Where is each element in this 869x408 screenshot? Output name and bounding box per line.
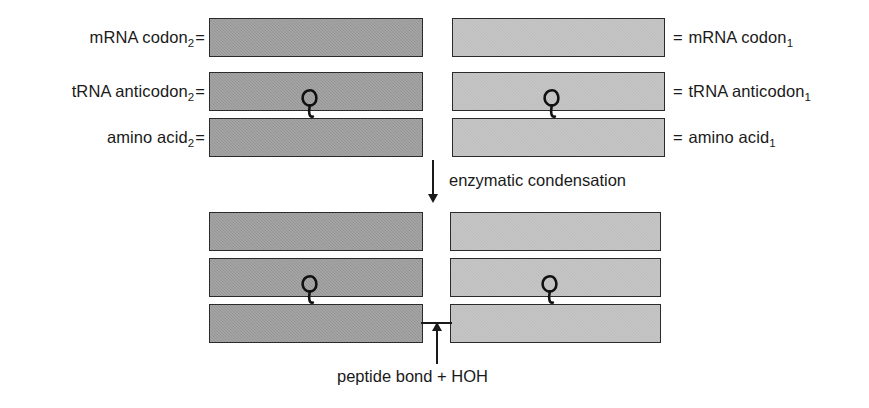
label-mrna-codon-2-subscript: 2 bbox=[188, 36, 195, 48]
label-trna-anticodon-2-subscript: 2 bbox=[188, 90, 195, 102]
bar-top-left-mrna-codon-2 bbox=[209, 18, 423, 57]
label-amino-acid-1-text: amino acid bbox=[688, 128, 769, 146]
peptide-bond-caption: peptide bond + HOH bbox=[337, 368, 488, 385]
label-trna-anticodon-1: = tRNA anticodon1 bbox=[672, 83, 811, 100]
bar-bottom-right-amino-acid-1 bbox=[450, 304, 661, 343]
label-trna-anticodon-2: tRNA anticodon2= bbox=[20, 83, 206, 100]
bar-top-right-amino-acid-1 bbox=[452, 118, 665, 157]
label-amino-acid-1-subscript: 1 bbox=[769, 136, 776, 148]
label-mrna-codon-1-equals: = bbox=[672, 28, 684, 46]
bar-top-right-mrna-codon-1 bbox=[452, 18, 665, 57]
peptide-bond-diagram: mRNA codon2= tRNA anticodon2= amino acid… bbox=[0, 0, 869, 408]
trna-loop-icon-top-right bbox=[540, 88, 566, 120]
peptide-bond-arrow-shaft bbox=[436, 330, 438, 364]
enzymatic-condensation-caption: enzymatic condensation bbox=[449, 172, 626, 189]
label-mrna-codon-2-equals: = bbox=[194, 28, 206, 46]
trna-loop-icon-top-left bbox=[298, 88, 324, 120]
label-amino-acid-2-equals: = bbox=[194, 128, 206, 146]
label-amino-acid-1: = amino acid1 bbox=[672, 129, 776, 146]
bar-bottom-left-amino-acid-2 bbox=[209, 304, 423, 343]
peptide-bond-arrow-head bbox=[432, 322, 442, 331]
label-mrna-codon-1-text: mRNA codon bbox=[688, 28, 786, 46]
label-amino-acid-1-equals: = bbox=[672, 128, 684, 146]
bar-bottom-right-mrna-codon-1 bbox=[450, 212, 661, 251]
label-trna-anticodon-2-text: tRNA anticodon bbox=[72, 82, 188, 100]
label-amino-acid-2: amino acid2= bbox=[20, 129, 206, 146]
label-amino-acid-2-subscript: 2 bbox=[188, 136, 195, 148]
label-mrna-codon-1: = mRNA codon1 bbox=[672, 29, 793, 46]
label-trna-anticodon-2-equals: = bbox=[194, 82, 206, 100]
bar-top-left-amino-acid-2 bbox=[209, 118, 423, 157]
label-trna-anticodon-1-equals: = bbox=[672, 82, 684, 100]
enzymatic-condensation-arrow-head bbox=[428, 194, 438, 203]
label-amino-acid-2-text: amino acid bbox=[107, 128, 188, 146]
label-mrna-codon-2-text: mRNA codon bbox=[90, 28, 188, 46]
trna-loop-icon-bottom-left bbox=[298, 274, 324, 306]
label-mrna-codon-2: mRNA codon2= bbox=[20, 29, 206, 46]
label-trna-anticodon-1-text: tRNA anticodon bbox=[688, 82, 804, 100]
label-trna-anticodon-1-subscript: 1 bbox=[805, 90, 812, 102]
enzymatic-condensation-arrow-shaft bbox=[432, 160, 434, 196]
trna-loop-icon-bottom-right bbox=[538, 274, 564, 306]
bar-bottom-left-mrna-codon-2 bbox=[209, 212, 423, 251]
label-mrna-codon-1-subscript: 1 bbox=[787, 36, 794, 48]
